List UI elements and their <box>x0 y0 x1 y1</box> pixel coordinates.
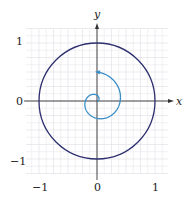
y-tick-1: 1 <box>16 36 23 47</box>
x-axis-label: x <box>176 96 182 107</box>
y-tick-0: 0 <box>16 96 23 107</box>
spiral-arrow-icon <box>95 70 100 74</box>
y-axis-label: y <box>94 9 100 20</box>
x-tick-0: 0 <box>94 182 101 193</box>
x-tick-1: 1 <box>152 182 159 193</box>
x-tick-neg1: −1 <box>32 182 48 193</box>
y-tick-neg1: −1 <box>10 156 26 167</box>
y-axis-arrow-icon <box>95 23 99 29</box>
plot-canvas <box>0 0 189 202</box>
x-axis-arrow-icon <box>168 99 174 103</box>
